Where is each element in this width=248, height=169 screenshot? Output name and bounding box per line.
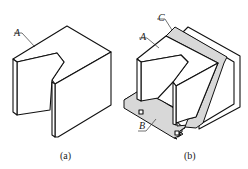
caption-b: (b) — [184, 150, 196, 162]
label-a: A — [13, 27, 21, 38]
label-c: C — [158, 12, 165, 23]
foot-left — [139, 110, 143, 114]
foot-right — [175, 131, 179, 135]
panel-b: C A B (b) — [124, 12, 240, 162]
block-b-right-slab-face — [173, 82, 176, 125]
block-a-right-slab-edge — [52, 82, 55, 137]
block-b-left-slab-edge — [137, 59, 141, 101]
block-a-left-slab-edge — [13, 59, 17, 115]
diagram-canvas: A (a) C A B (b) — [0, 0, 248, 169]
panel-a: A (a) — [13, 26, 111, 162]
caption-a: (a) — [60, 150, 71, 162]
label-b: B — [139, 120, 145, 131]
label-a-b: A — [139, 31, 147, 42]
